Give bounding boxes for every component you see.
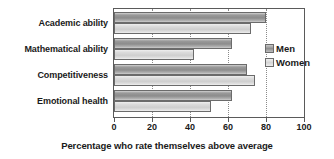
bar-men-competitiveness [114, 64, 247, 75]
women-swatch-icon [265, 58, 274, 67]
men-swatch-icon [265, 44, 274, 53]
x-tick-label-60: 60 [216, 122, 240, 132]
bar-men-emotional-health [114, 90, 232, 101]
category-label-academic-ability: Academic ability [0, 18, 108, 28]
x-tick-label-80: 80 [254, 122, 278, 132]
legend-label-women: Women [276, 57, 310, 68]
bar-women-academic-ability [114, 23, 251, 34]
bar-women-emotional-health [114, 101, 211, 112]
x-tick-label-0: 0 [102, 122, 126, 132]
legend-item-women: Women [265, 56, 327, 68]
bar-women-competitiveness [114, 75, 255, 86]
legend-label-men: Men [276, 43, 295, 54]
x-tick-label-40: 40 [178, 122, 202, 132]
bar-women-mathematical-ability [114, 49, 194, 60]
x-tick-label-100: 100 [292, 122, 316, 132]
legend: Men Women [265, 42, 327, 70]
category-label-mathematical-ability: Mathematical ability [0, 44, 108, 54]
x-axis-title: Percentage who rate themselves above ave… [0, 140, 334, 151]
bar-men-mathematical-ability [114, 38, 232, 49]
x-tick-label-20: 20 [140, 122, 164, 132]
legend-item-men: Men [265, 42, 327, 54]
category-axis-labels: Academic ability Mathematical ability Co… [0, 8, 110, 118]
bar-chart: Academic ability Mathematical ability Co… [0, 0, 334, 159]
category-label-competitiveness: Competitiveness [0, 70, 108, 80]
bar-men-academic-ability [114, 12, 266, 23]
category-label-emotional-health: Emotional health [0, 96, 108, 106]
